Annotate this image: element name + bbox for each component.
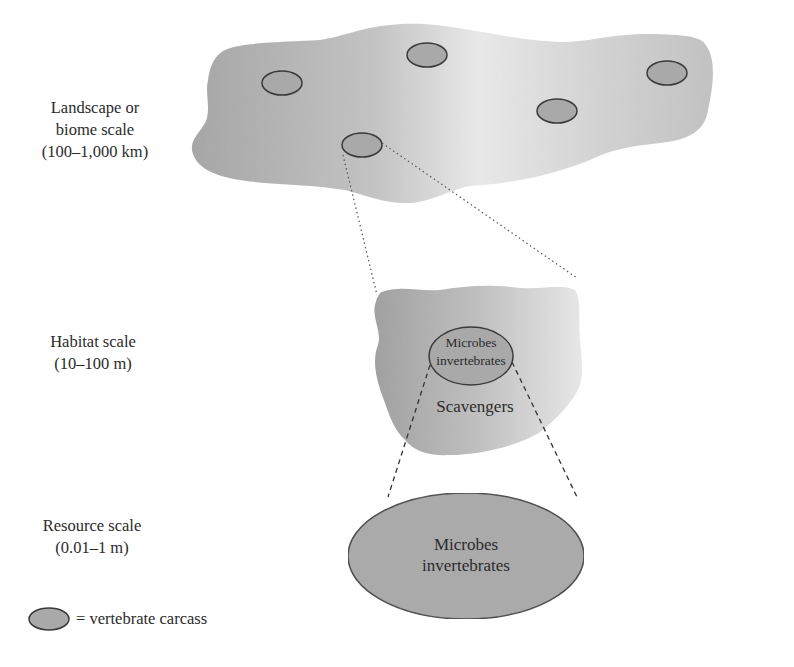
resource-scale-label: Resource scale (0.01–1 m) — [22, 515, 162, 559]
landscape-region — [192, 24, 713, 203]
carcass-ellipse — [262, 71, 302, 95]
landscape-scale-line1: Landscape or — [20, 97, 170, 119]
habitat-scale-label: Habitat scale (10–100 m) — [28, 331, 158, 375]
scavengers-label: Scavengers — [420, 397, 530, 417]
landscape-scale-label: Landscape or biome scale (100–1,000 km) — [20, 97, 170, 163]
legend-label: = vertebrate carcass — [76, 608, 207, 630]
habitat-scale-line2: (10–100 m) — [28, 353, 158, 375]
resource-scale-line1: Resource scale — [22, 515, 162, 537]
carcass-ellipse-selected — [342, 133, 382, 157]
resource-ellipse-line1: Microbes — [400, 534, 532, 555]
carcass-ellipse — [407, 43, 447, 67]
habitat-ellipse-line1: Microbes — [425, 334, 517, 352]
carcass-ellipse — [647, 61, 687, 85]
resource-ellipse-text: Microbes invertebrates — [400, 534, 532, 576]
habitat-scale-line1: Habitat scale — [28, 331, 158, 353]
landscape-scale-line3: (100–1,000 km) — [20, 141, 170, 163]
habitat-ellipse-text: Microbes invertebrates — [425, 334, 517, 370]
resource-ellipse-line2: invertebrates — [400, 555, 532, 576]
landscape-scale-line2: biome scale — [20, 119, 170, 141]
legend-carcass-icon — [29, 608, 69, 630]
resource-scale-line2: (0.01–1 m) — [22, 537, 162, 559]
habitat-ellipse-line2: invertebrates — [425, 352, 517, 370]
carcass-ellipse — [537, 99, 577, 123]
